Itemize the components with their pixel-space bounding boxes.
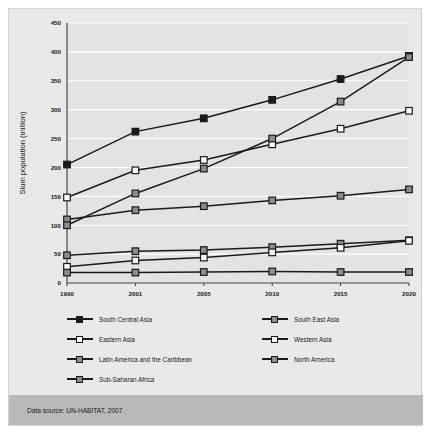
legend-marker-icon: [67, 354, 93, 364]
series-marker: [132, 190, 139, 197]
legend-item-north-america[interactable]: North America: [262, 349, 339, 369]
legend-item-sub-saharan-africa[interactable]: Sub-Saharan Africa: [67, 369, 192, 389]
series-marker: [132, 257, 139, 264]
x-axis-tick-label: 2020: [402, 290, 416, 297]
series-marker: [201, 115, 208, 122]
legend-label: Sub-Saharan Africa: [99, 376, 154, 383]
series-marker: [337, 244, 344, 251]
chart-legend: South Central AsiaEastern AsiaLatin Amer…: [9, 309, 423, 387]
x-axis-tick-label: 2010: [265, 290, 279, 297]
series-marker: [269, 268, 276, 275]
y-axis-title: Slum population (million): [18, 111, 27, 195]
y-axis-tick-label: 100: [51, 222, 62, 229]
y-axis-tick-label: 450: [51, 19, 62, 26]
legend-label: Eastern Asia: [99, 336, 135, 343]
series-marker: [337, 76, 344, 83]
chart-card: 0501001502002503003504004501990200120052…: [8, 8, 422, 426]
y-axis-tick-label: 200: [51, 164, 62, 171]
series-marker: [132, 207, 139, 214]
legend-marker-icon: [67, 374, 93, 384]
series-marker: [406, 54, 413, 61]
legend-label: South East Asia: [294, 316, 339, 323]
series-marker: [132, 128, 139, 135]
series-marker: [201, 254, 208, 261]
series-marker: [201, 157, 208, 164]
y-axis-tick-label: 150: [51, 193, 62, 200]
series-marker: [406, 108, 413, 115]
x-axis-tick-label: 2005: [197, 290, 211, 297]
legend-marker-icon: [67, 334, 93, 344]
series-marker: [269, 97, 276, 104]
y-axis-tick-label: 0: [58, 279, 62, 286]
series-marker: [269, 135, 276, 142]
legend-label: Latin America and the Caribbean: [99, 356, 192, 363]
series-marker: [132, 248, 139, 255]
legend-column-left: South Central AsiaEastern AsiaLatin Amer…: [67, 309, 192, 389]
legend-marker-icon: [262, 354, 288, 364]
series-marker: [64, 161, 71, 168]
x-axis-tick-label: 1990: [60, 290, 74, 297]
series-marker: [64, 194, 71, 201]
series-marker: [406, 186, 413, 193]
series-marker: [132, 269, 139, 276]
legend-item-south-central-asia[interactable]: South Central Asia: [67, 309, 192, 329]
legend-item-eastern-asia[interactable]: Eastern Asia: [67, 329, 192, 349]
series-marker: [64, 222, 71, 229]
legend-marker-icon: [262, 314, 288, 324]
legend-item-south-east-asia[interactable]: South East Asia: [262, 309, 339, 329]
legend-marker-icon: [262, 334, 288, 344]
series-marker: [337, 98, 344, 105]
series-marker: [132, 167, 139, 174]
y-axis-tick-label: 250: [51, 135, 62, 142]
series-marker: [406, 269, 413, 276]
legend-marker-icon: [67, 314, 93, 324]
legend-label: South Central Asia: [99, 316, 152, 323]
slum-population-line-chart: 0501001502002503003504004501990200120052…: [9, 9, 423, 309]
y-axis-tick-label: 350: [51, 77, 62, 84]
series-marker: [64, 269, 71, 276]
legend-column-right: South East AsiaWestern AsiaNorth America: [262, 309, 339, 389]
chart-footer: Data source: UN-HABITAT, 2007: [9, 395, 423, 425]
legend-item-western-asia[interactable]: Western Asia: [262, 329, 339, 349]
series-marker: [337, 192, 344, 199]
series-marker: [337, 269, 344, 276]
y-axis-tick-label: 400: [51, 48, 62, 55]
y-axis-tick-label: 50: [54, 250, 61, 257]
series-marker: [201, 203, 208, 210]
legend-label: North America: [294, 356, 335, 363]
series-marker: [269, 249, 276, 256]
y-axis-tick-label: 300: [51, 106, 62, 113]
series-marker: [201, 247, 208, 254]
legend-item-latin-america-and-the-caribbean[interactable]: Latin America and the Caribbean: [67, 349, 192, 369]
series-marker: [201, 165, 208, 172]
x-axis-tick-label: 2015: [334, 290, 348, 297]
data-source-text: Data source: UN-HABITAT, 2007: [27, 407, 122, 414]
chart-plot-area: 0501001502002503003504004501990200120052…: [9, 9, 423, 309]
series-marker: [64, 252, 71, 259]
series-marker: [201, 269, 208, 276]
series-marker: [269, 197, 276, 204]
legend-label: Western Asia: [294, 336, 332, 343]
x-axis-tick-label: 2001: [129, 290, 143, 297]
series-marker: [337, 125, 344, 132]
series-marker: [406, 238, 413, 245]
